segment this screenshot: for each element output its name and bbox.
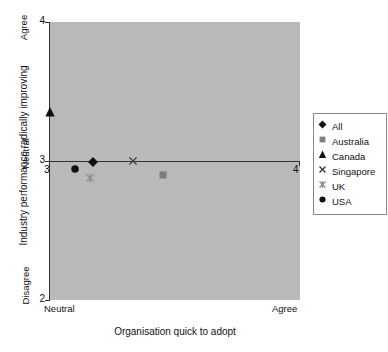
legend-item-label: Australia: [332, 136, 369, 147]
legend-item-uk[interactable]: UK: [318, 179, 384, 194]
legend-item-singapore[interactable]: Singapore: [318, 164, 384, 179]
legend-item-usa[interactable]: USA: [318, 194, 384, 209]
y-axis-tick-2: 2: [31, 293, 45, 304]
x-axis-label-neutral: Neutral: [44, 303, 75, 314]
legend-item-label: Singapore: [332, 166, 375, 177]
y-axis-label-neutral: Neutral: [20, 128, 31, 180]
x-axis-title: Organisation quick to adopt: [50, 326, 300, 337]
y-axis-tick-3: 3: [31, 154, 45, 165]
circle-marker-icon: [318, 195, 331, 208]
scatter-chart-figure: Industry performance radically improving…: [0, 0, 388, 352]
data-point-singapore: [127, 156, 138, 167]
square-marker-icon: [318, 135, 331, 148]
legend-item-australia[interactable]: Australia: [318, 134, 384, 149]
data-point-uk: [85, 172, 96, 183]
legend-item-label: UK: [332, 181, 345, 192]
x-axis-label-agree: Agree: [272, 303, 297, 314]
triangle-marker-icon: [318, 150, 331, 163]
x-marker-icon: [318, 165, 331, 178]
chart-legend: AllAustraliaCanadaSingaporeUKUSA: [313, 113, 387, 215]
reference-line-end-tick: [299, 161, 300, 166]
y-axis-label-disagree: Disagree: [20, 258, 31, 314]
asterisk-marker-icon: [318, 180, 331, 193]
y-axis-tick-4: 4: [31, 15, 45, 26]
legend-item-label: All: [332, 121, 343, 132]
x-axis-tick-3: 3: [44, 164, 50, 175]
legend-item-all[interactable]: All: [318, 119, 384, 134]
diamond-marker-icon: [318, 120, 331, 133]
data-point-canada: [45, 107, 56, 118]
x-axis-tick-4: 4: [293, 164, 299, 175]
legend-item-label: Canada: [332, 151, 365, 162]
y-axis-label-agree: Agree: [18, 4, 29, 52]
legend-item-canada[interactable]: Canada: [318, 149, 384, 164]
legend-item-label: USA: [332, 196, 352, 207]
data-point-usa: [70, 164, 81, 175]
data-point-australia: [157, 169, 168, 180]
data-point-all: [87, 157, 98, 168]
